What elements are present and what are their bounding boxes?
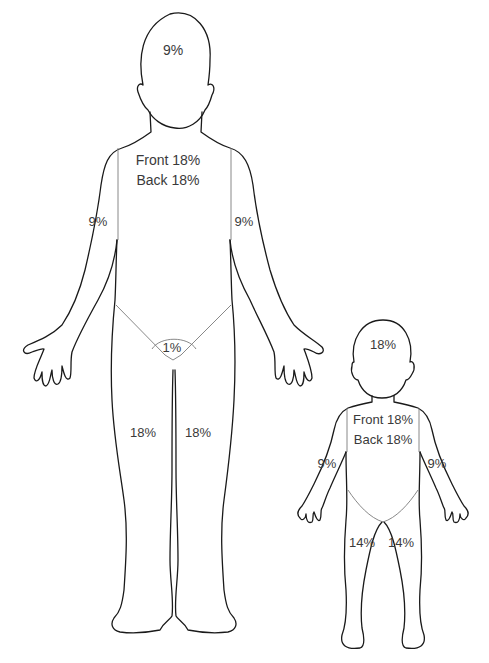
adult-trunk-back-label: Back 18% <box>136 171 199 189</box>
adult-figure <box>24 13 324 633</box>
adult-body-left <box>24 112 151 386</box>
child-head-label: 18% <box>370 337 396 353</box>
body-outlines <box>0 0 489 663</box>
adult-trunk-front-label: Front 18% <box>136 151 201 169</box>
adult-right-arm-label: 9% <box>89 213 108 230</box>
adult-left-arm-label: 9% <box>235 213 254 230</box>
adult-head <box>137 13 213 128</box>
child-head <box>351 320 414 398</box>
child-right-arm-label: 9% <box>318 456 337 472</box>
adult-right-leg-label: 18% <box>130 424 156 441</box>
adult-perineum-label: 1% <box>163 339 182 356</box>
child-trunk-back-label: Back 18% <box>354 432 413 448</box>
child-figure <box>298 320 468 648</box>
adult-left-leg-label: 18% <box>185 424 211 441</box>
child-left-leg-label: 14% <box>388 535 414 551</box>
adult-head-label: 9% <box>163 41 183 59</box>
child-left-arm-label: 9% <box>428 456 447 472</box>
adult-body-right <box>201 112 323 386</box>
child-trunk-front-label: Front 18% <box>353 412 413 428</box>
child-right-leg-label: 14% <box>349 535 375 551</box>
